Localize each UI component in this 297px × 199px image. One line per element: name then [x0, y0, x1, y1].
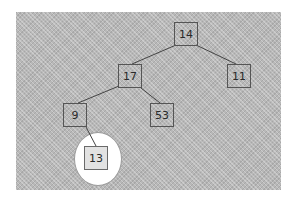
- edge-9-13: [86, 127, 96, 146]
- tree-node-17[interactable]: 17: [118, 64, 142, 88]
- tree-node-53[interactable]: 53: [150, 103, 174, 127]
- tree-node-14[interactable]: 14: [174, 22, 198, 46]
- tree-node-11[interactable]: 11: [227, 64, 251, 88]
- tree-node-9[interactable]: 9: [63, 103, 87, 127]
- tree-node-13-highlighted[interactable]: 13: [84, 146, 108, 170]
- tree-edges-front: [0, 0, 297, 199]
